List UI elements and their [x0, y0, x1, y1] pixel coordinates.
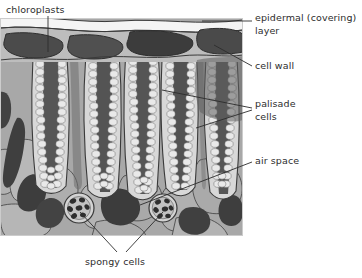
label-palisade-cells: palisadecells	[255, 98, 296, 123]
diagram-canvas	[0, 0, 362, 278]
spongy-cell	[64, 193, 94, 223]
spongy-cell	[149, 194, 177, 222]
shaded-region	[195, 56, 243, 122]
label-palisade-line1: palisade	[255, 98, 296, 109]
label-spongy-cells: spongy cells	[85, 256, 145, 269]
label-epidermal-line2: layer	[255, 25, 279, 36]
label-epidermal-line1: epidermal (covering)	[255, 12, 356, 23]
epidermal-cell	[197, 28, 243, 54]
label-chloroplasts: chloroplasts	[6, 4, 65, 17]
label-palisade-line2: cells	[255, 111, 277, 122]
leaf-cross-section-drawing	[0, 17, 243, 239]
label-air-space: air space	[255, 155, 299, 168]
palisade-cell	[32, 52, 69, 194]
palisade-cell	[124, 43, 160, 200]
palisade-cell	[161, 39, 198, 196]
label-epidermal-layer: epidermal (covering)layer	[255, 12, 356, 37]
air-space	[179, 207, 211, 235]
label-cell-wall: cell wall	[255, 60, 294, 73]
epidermal-layer	[0, 17, 243, 62]
palisade-cell	[84, 47, 121, 198]
air-space	[219, 195, 243, 226]
